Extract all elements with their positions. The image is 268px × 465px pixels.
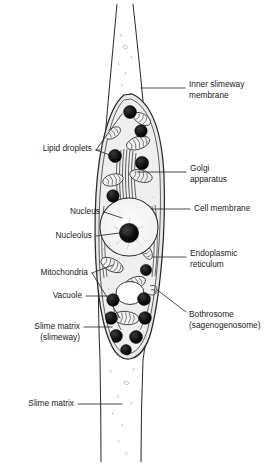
label-nucleolus: Nucleolus [56,230,92,240]
cell-diagram: Inner slimeway membrane Lipid droplets G… [0,0,268,465]
lipid-droplet [109,150,122,163]
label-bothrosome-line2: (sagenogenosome) [189,320,261,330]
label-golgi-apparatus-line2: apparatus [190,174,227,184]
label-golgi-apparatus: Golgi [190,163,210,173]
lipid-droplet [135,125,147,137]
label-endoplasmic-reticulum-line2: reticulum [190,259,224,269]
lipid-droplet [130,331,143,344]
lipid-droplet [135,156,148,169]
nucleus [100,198,158,256]
leader-bothrosome [156,289,186,312]
label-inner-slimeway-membrane: Inner slimeway [189,79,245,89]
label-cell-membrane: Cell membrane [194,203,251,213]
lipid-droplet [140,264,151,275]
lipid-droplet [124,106,137,119]
label-nucleus: Nucleus [70,206,100,216]
label-vacuole: Vacuole [53,290,83,300]
lipid-droplet [105,312,118,325]
diagram-canvas: Inner slimeway membrane Lipid droplets G… [0,0,268,465]
lipid-droplet [123,80,134,91]
lipid-droplet [139,312,152,325]
label-lipid-droplets: Lipid droplets [43,143,92,153]
label-bothrosome: Bothrosome [189,309,234,319]
lipid-droplet [107,190,119,202]
label-mitochondria: Mitochondria [40,267,88,277]
label-slime-matrix-slimeway-line2: (slimeway) [40,332,80,342]
label-endoplasmic-reticulum: Endoplasmic [190,248,238,258]
label-slime-matrix: Slime matrix [28,398,74,408]
lipid-droplet [138,293,151,306]
label-slime-matrix-slimeway: Slime matrix [34,321,80,331]
label-inner-slimeway-membrane-line2: membrane [189,90,229,100]
